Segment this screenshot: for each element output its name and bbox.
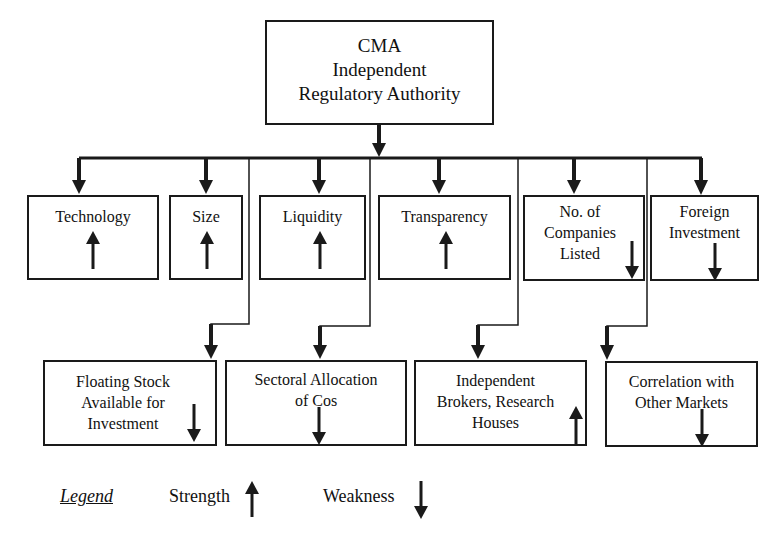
strength-arrow-up-icon [569, 406, 583, 444]
legend-arrow-up-icon [245, 481, 259, 517]
legend-title: Legend [60, 486, 113, 507]
correlation-box: Correlation with Other Markets [605, 361, 758, 447]
weakness-arrow-down-icon [625, 241, 639, 279]
legend-weakness-label: Weakness [323, 486, 395, 507]
box-label: Independent Brokers, Research Houses [406, 370, 585, 433]
strength-arrow-up-icon [86, 231, 100, 269]
weakness-arrow-down-icon [312, 407, 326, 445]
floating-stock-box: Floating Stock Available for Investment [43, 360, 217, 446]
title-line: CMA [267, 34, 492, 58]
legend-arrow-down-icon [414, 481, 428, 519]
arrow-down-icon [694, 180, 708, 195]
arrow-down-icon [432, 180, 446, 194]
cma-authority-label: CMA Independent Regulatory Authority [267, 34, 492, 106]
title-line: Independent [267, 58, 492, 82]
companies-listed-box: No. of Companies Listed [523, 195, 645, 281]
strength-arrow-up-icon [200, 231, 214, 269]
liquidity-box: Liquidity [259, 195, 366, 280]
strength-arrow-up-icon [439, 231, 453, 269]
arrow-down-icon [312, 180, 326, 194]
arrow-down-icon [567, 180, 581, 194]
title-line: Regulatory Authority [267, 82, 492, 106]
independent-brokers-box: Independent Brokers, Research Houses [414, 360, 587, 446]
box-label: Technology [29, 206, 157, 227]
box-label: Transparency [380, 206, 509, 227]
arrow-down-icon [372, 143, 386, 157]
strength-arrow-up-icon [313, 231, 327, 269]
weakness-arrow-down-icon [187, 404, 201, 442]
weakness-arrow-down-icon [708, 243, 722, 281]
sectoral-allocation-box: Sectoral Allocation of Cos [225, 360, 407, 446]
box-label: Foreign Investment [652, 201, 757, 243]
arrow-down-icon [471, 345, 485, 359]
arrow-down-icon [199, 180, 213, 194]
transparency-box: Transparency [378, 195, 511, 280]
size-box: Size [169, 195, 243, 280]
legend-strength-label: Strength [169, 486, 230, 507]
foreign-investment-box: Foreign Investment [650, 195, 759, 281]
cma-authority-box: CMA Independent Regulatory Authority [265, 20, 494, 125]
box-label: Correlation with Other Markets [607, 371, 756, 413]
box-label: Sectoral Allocation of Cos [227, 369, 405, 411]
arrow-down-icon [313, 345, 327, 359]
technology-box: Technology [27, 195, 159, 280]
arrow-down-icon [600, 345, 614, 360]
weakness-arrow-down-icon [695, 409, 709, 447]
arrow-down-icon [204, 345, 218, 359]
arrow-down-icon [72, 180, 86, 194]
box-label: Liquidity [261, 206, 364, 227]
box-label: Size [171, 206, 241, 227]
